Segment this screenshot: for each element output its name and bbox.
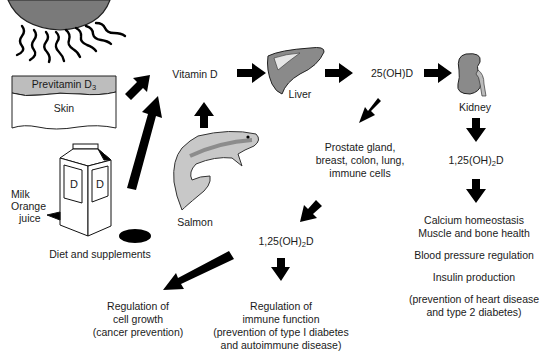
supplement-pill-icon xyxy=(119,229,151,243)
arrow-diet-to-vitd xyxy=(127,96,162,190)
juice-label: juice xyxy=(19,212,41,225)
salmon-icon xyxy=(174,131,259,210)
arrow-fish-to-vitd xyxy=(194,102,214,128)
cell-growth-outcome: Regulation of cell growth (cancer preven… xyxy=(90,300,186,339)
salmon-caption: Salmon xyxy=(170,216,220,229)
carton-letter-right: D xyxy=(92,178,108,191)
calcitriol-local-node: 1,25(OH)2D xyxy=(250,235,322,248)
sun-icon xyxy=(8,0,110,30)
arrow-skin-to-vitd xyxy=(125,75,150,100)
kidney-label: Kidney xyxy=(450,101,500,114)
liver-label: Liver xyxy=(280,88,320,101)
previtamin-d3-label: Previtamin D3 xyxy=(12,78,116,91)
diet-caption: Diet and supplements xyxy=(40,248,160,261)
calcidiol-node: 25(OH)D xyxy=(362,67,422,80)
kidney-icon xyxy=(458,54,486,96)
vitamin-d-node: Vitamin D xyxy=(165,68,225,81)
calcitriol-kidney-node: 1,25(OH)2D xyxy=(440,154,512,167)
carton-letter-left: D xyxy=(66,178,82,191)
target-tissues-node: Prostate gland, breast, colon, lung, imm… xyxy=(310,141,410,180)
skin-label: Skin xyxy=(12,102,116,115)
immune-outcome: Regulation of immune function (preventio… xyxy=(206,300,356,352)
kidney-effects: Calcium homeostasis Muscle and bone heal… xyxy=(400,214,548,319)
